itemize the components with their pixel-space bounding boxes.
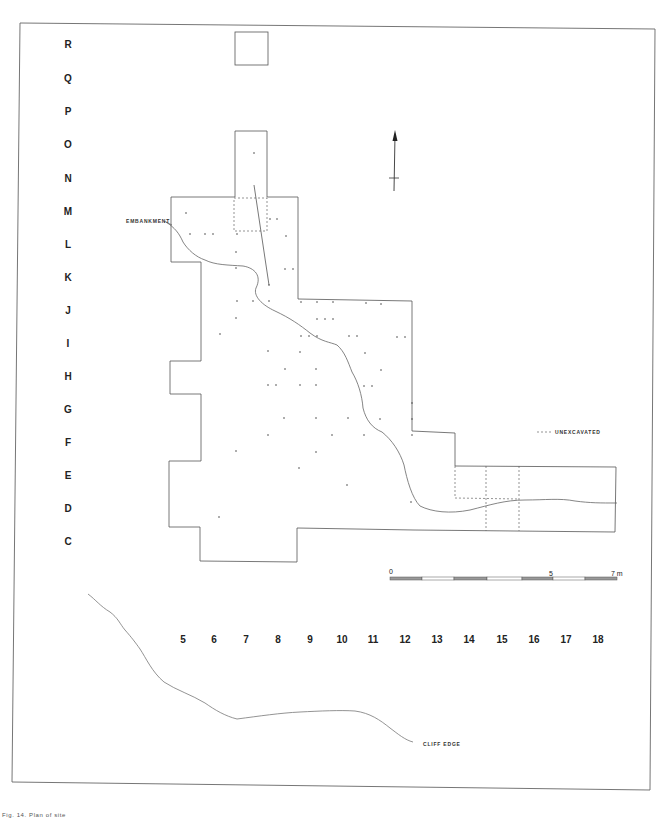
row-label-n: N xyxy=(62,173,74,185)
col-label-16: 16 xyxy=(523,634,545,646)
north-arrow-icon xyxy=(389,130,399,191)
col-label-15: 15 xyxy=(491,634,513,646)
trench-square-r7 xyxy=(235,32,268,65)
row-label-d: D xyxy=(62,503,74,515)
embankment-label: EMBANKMENT xyxy=(126,218,170,224)
col-label-12: 12 xyxy=(394,634,416,646)
col-label-9: 9 xyxy=(299,634,321,646)
cliff-edge-line xyxy=(88,594,413,742)
col-label-13: 13 xyxy=(426,634,448,646)
col-label-6: 6 xyxy=(203,634,225,646)
row-label-j: J xyxy=(62,305,74,317)
col-label-8: 8 xyxy=(267,634,289,646)
site-plan-map: R Q P O N M L K J I H G F E D C 5 6 7 8 … xyxy=(0,0,661,826)
row-label-k: K xyxy=(62,272,74,284)
embankment-line xyxy=(166,222,617,512)
scale-end: 7 m xyxy=(611,570,623,578)
row-label-o: O xyxy=(62,139,74,151)
map-border xyxy=(12,23,655,790)
col-label-5: 5 xyxy=(172,634,194,646)
row-label-p: P xyxy=(62,106,74,118)
scale-start: 0 xyxy=(389,568,393,576)
scale-mid: 5 xyxy=(549,570,553,578)
unexcavated-area-m7 xyxy=(234,198,267,231)
excavation-outline xyxy=(169,131,616,562)
section-line xyxy=(254,185,269,285)
col-label-11: 11 xyxy=(362,634,384,646)
map-drawing xyxy=(0,0,661,826)
row-label-h: H xyxy=(62,371,74,383)
col-label-18: 18 xyxy=(587,634,609,646)
row-label-r: R xyxy=(62,39,74,51)
col-label-14: 14 xyxy=(458,634,480,646)
legend-unexcavated-label: UNEXCAVATED xyxy=(555,429,601,435)
row-label-g: G xyxy=(62,404,74,416)
row-label-c: C xyxy=(62,536,74,548)
col-label-17: 17 xyxy=(555,634,577,646)
cliff-edge-label: CLIFF EDGE xyxy=(423,741,461,747)
find-spots xyxy=(185,152,413,518)
figure-caption: Fig. 14. Plan of site xyxy=(2,812,66,818)
row-label-m: M xyxy=(62,206,74,218)
scale-bar xyxy=(390,577,617,580)
row-label-l: L xyxy=(62,239,74,251)
row-label-i: I xyxy=(62,338,74,350)
unexcavated-area-e14 xyxy=(455,466,519,499)
row-label-q: Q xyxy=(62,73,74,85)
col-label-7: 7 xyxy=(235,634,257,646)
col-label-10: 10 xyxy=(331,634,353,646)
row-label-f: F xyxy=(62,437,74,449)
row-label-e: E xyxy=(62,470,74,482)
